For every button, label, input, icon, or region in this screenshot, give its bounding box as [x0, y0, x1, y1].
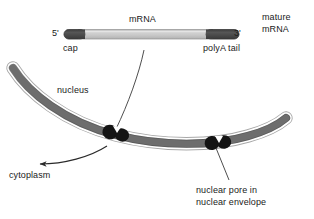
mrna-export-diagram: mRNA 5' 3' cap polyA tail mature mRNA nu… [0, 0, 314, 219]
polya-tail-label: polyA tail [203, 43, 240, 54]
mrna-polya-square-joint [206, 30, 213, 40]
nuclear-envelope [13, 68, 286, 144]
mrna-to-pore-leader-line [116, 50, 144, 129]
pore-label-leader-line [216, 148, 229, 180]
five-prime-label: 5' [52, 28, 59, 39]
nuclear-pore-label-line1: nuclear pore in [196, 184, 266, 196]
cytoplasm-label: cytoplasm [9, 170, 50, 181]
three-prime-label: 3' [234, 28, 241, 39]
mrna-molecule [64, 30, 239, 40]
mature-mrna-label: mature mRNA [262, 11, 291, 35]
cap-label: cap [63, 43, 78, 54]
cytoplasm-export-arrow [40, 146, 107, 164]
nucleus-label: nucleus [57, 85, 89, 96]
mature-mrna-label-line1: mature [262, 11, 291, 23]
nuclear-pore-label: nuclear pore in nuclear envelope [196, 184, 266, 208]
mature-mrna-label-line2: mRNA [262, 23, 291, 35]
mrna-title-label: mRNA [129, 14, 156, 25]
mrna-cap-square-joint [78, 30, 85, 40]
nuclear-pore-label-line2: nuclear envelope [196, 196, 266, 208]
